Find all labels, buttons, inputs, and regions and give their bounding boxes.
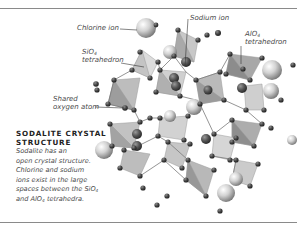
label-shared-oxygen-atom: Shared oxygen atom bbox=[53, 95, 99, 111]
label-shared-oxygen-line2: oxygen atom bbox=[53, 103, 99, 111]
caption-line-3: Chlorine and sodium bbox=[16, 166, 84, 174]
label-chlorine-ion-text: Chlorine ion bbox=[77, 24, 119, 32]
figure-title-text: SODALITE CRYSTAL STRUCTURE bbox=[16, 129, 106, 147]
caption-line-1: Sodalite has an bbox=[16, 147, 67, 155]
caption-line-6: and AlO bbox=[16, 195, 42, 203]
figure-title: SODALITE CRYSTAL STRUCTURE bbox=[16, 129, 108, 147]
label-shared-oxygen-line1: Shared bbox=[53, 95, 78, 103]
label-sodium-ion-text: Sodium ion bbox=[190, 14, 229, 22]
label-alo4-word: tetrahedron bbox=[245, 38, 287, 46]
label-sio4-formula: SiO bbox=[82, 48, 94, 56]
caption-line-5-subscript: 4 bbox=[96, 188, 99, 193]
caption-line-2: open crystal structure. bbox=[16, 157, 91, 165]
label-sodium-ion: Sodium ion bbox=[190, 14, 229, 22]
label-sio4-tetrahedron: SiO4 tetrahedron bbox=[82, 48, 124, 64]
caption-line-5: spaces between the SiO bbox=[16, 185, 96, 193]
label-alo4-formula: AlO bbox=[245, 30, 257, 38]
label-sio4-word: tetrahedron bbox=[82, 56, 124, 64]
caption-line-4: ions exist in the large bbox=[16, 176, 87, 184]
figure-caption: Sodalite has an open crystal structure. … bbox=[16, 147, 112, 205]
label-chlorine-ion: Chlorine ion bbox=[77, 24, 119, 32]
label-alo4-tetrahedron: AlO4 tetrahedron bbox=[245, 30, 287, 46]
caption-line-6-end: tetrahedra. bbox=[45, 195, 84, 203]
